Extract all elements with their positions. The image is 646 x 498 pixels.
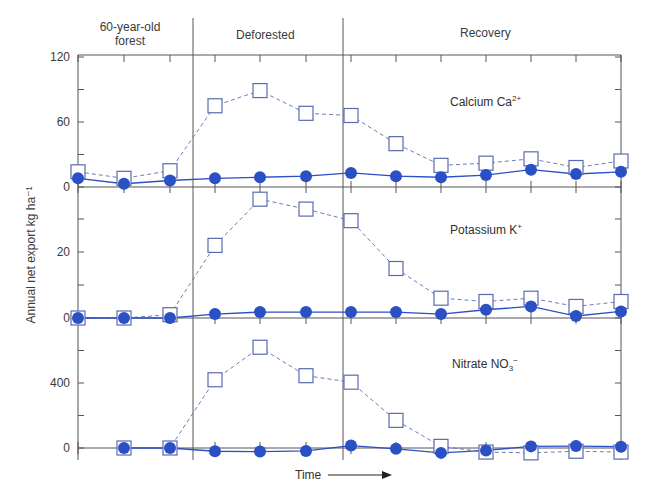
marker-circle-nitrate [390, 443, 402, 455]
marker-square-potassium [299, 202, 313, 216]
marker-circle-potassium [345, 306, 357, 318]
marker-circle-nitrate [570, 440, 582, 452]
marker-circle-nitrate [615, 441, 627, 453]
marker-circle-calcium [254, 171, 266, 183]
plot-area [0, 0, 646, 498]
marker-circle-calcium [300, 170, 312, 182]
marker-circle-potassium [435, 308, 447, 320]
marker-circle-potassium [480, 304, 492, 316]
marker-square-nitrate [208, 373, 222, 387]
series-line-calcium-deforested [78, 91, 621, 179]
marker-circle-potassium [390, 306, 402, 318]
marker-square-calcium [389, 137, 403, 151]
marker-circle-potassium [72, 312, 84, 324]
marker-circle-calcium [118, 178, 130, 190]
marker-circle-calcium [72, 172, 84, 184]
marker-circle-nitrate [300, 445, 312, 457]
marker-circle-potassium [570, 310, 582, 322]
marker-circle-nitrate [118, 442, 130, 454]
marker-circle-calcium [435, 171, 447, 183]
marker-circle-calcium [164, 175, 176, 187]
marker-circle-nitrate [480, 444, 492, 456]
marker-square-potassium [389, 262, 403, 276]
marker-square-calcium [208, 99, 222, 113]
marker-circle-nitrate [525, 440, 537, 452]
marker-circle-nitrate [164, 442, 176, 454]
marker-circle-calcium [390, 170, 402, 182]
marker-square-calcium [344, 109, 358, 123]
marker-circle-potassium [209, 308, 221, 320]
marker-square-potassium [344, 214, 358, 228]
marker-circle-calcium [570, 168, 582, 180]
marker-circle-potassium [164, 312, 176, 324]
marker-square-nitrate [253, 340, 267, 354]
marker-circle-calcium [209, 172, 221, 184]
marker-circle-potassium [525, 300, 537, 312]
marker-square-nitrate [299, 369, 313, 383]
marker-circle-potassium [615, 305, 627, 317]
marker-square-nitrate [344, 375, 358, 389]
marker-square-calcium [299, 106, 313, 120]
marker-square-calcium [434, 158, 448, 172]
series-line-nitrate-deforested [124, 347, 621, 453]
time-arrow-icon [382, 471, 392, 479]
marker-circle-calcium [525, 164, 537, 176]
marker-circle-nitrate [254, 446, 266, 458]
marker-circle-nitrate [209, 445, 221, 457]
marker-square-calcium [479, 156, 493, 170]
marker-square-potassium [434, 291, 448, 305]
marker-circle-calcium [345, 167, 357, 179]
marker-square-potassium [208, 238, 222, 252]
marker-square-calcium [253, 84, 267, 98]
marker-square-potassium [253, 192, 267, 206]
chart: 60-year-old forest Deforested Recovery 1… [0, 0, 646, 498]
marker-circle-nitrate [345, 440, 357, 452]
marker-circle-potassium [300, 306, 312, 318]
marker-circle-calcium [615, 166, 627, 178]
marker-circle-calcium [480, 169, 492, 181]
marker-circle-nitrate [435, 447, 447, 459]
marker-circle-potassium [254, 306, 266, 318]
marker-circle-potassium [118, 312, 130, 324]
series-line-nitrate-control [124, 446, 621, 453]
marker-square-nitrate [389, 413, 403, 427]
